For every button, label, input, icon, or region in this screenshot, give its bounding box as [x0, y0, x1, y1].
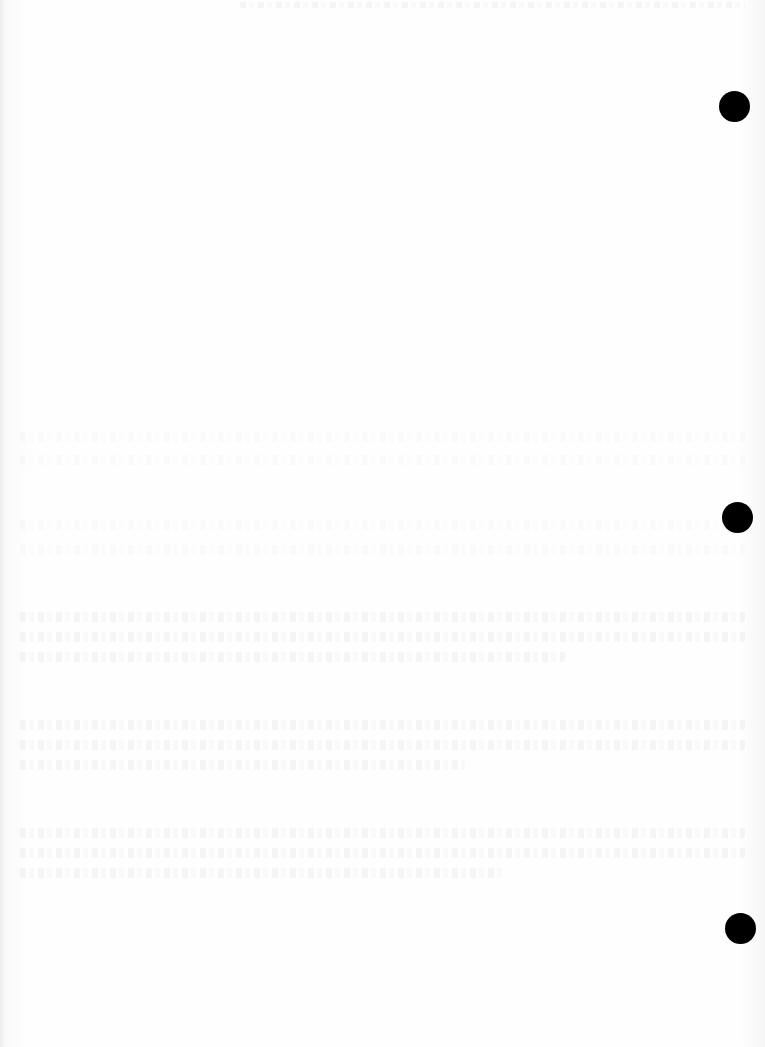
show-through-line [20, 828, 745, 838]
blank-page: Blank paper sheet with faint, illegible … [0, 0, 765, 1047]
show-through-line [20, 760, 465, 770]
show-through-line [20, 720, 745, 730]
show-through-line [20, 632, 745, 642]
show-through-line [20, 740, 745, 750]
show-through-line [20, 455, 745, 465]
show-through-line [240, 2, 745, 8]
show-through-line [20, 432, 745, 442]
page-description: Blank paper sheet with faint, illegible … [0, 0, 1, 1]
show-through-line [20, 545, 745, 555]
hole-punch-middle [722, 502, 753, 533]
hole-punch-bottom [725, 913, 756, 944]
hole-punch-top [719, 91, 750, 122]
show-through-line [20, 848, 745, 858]
show-through-line [20, 612, 745, 622]
show-through-line [20, 652, 565, 662]
show-through-line [20, 868, 505, 878]
show-through-line [20, 520, 745, 530]
